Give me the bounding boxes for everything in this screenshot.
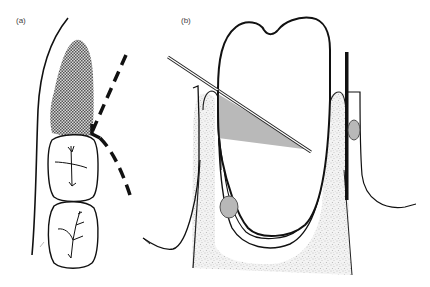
dashed-boundary-line — [92, 55, 126, 132]
gingiva-right — [348, 92, 416, 208]
calculus-deposit-right — [348, 120, 360, 140]
lower-tooth — [48, 202, 98, 269]
calculus-deposit-left — [220, 196, 238, 218]
diagram-canvas — [0, 0, 430, 287]
panel-a — [32, 18, 150, 268]
gingiva-left — [143, 86, 199, 249]
right-instrument-bar — [345, 52, 349, 200]
dashed-boundary-line-lower — [100, 138, 130, 195]
lesion-shaded-area — [50, 40, 93, 137]
upper-tooth — [48, 135, 98, 202]
panel-b — [143, 18, 416, 275]
